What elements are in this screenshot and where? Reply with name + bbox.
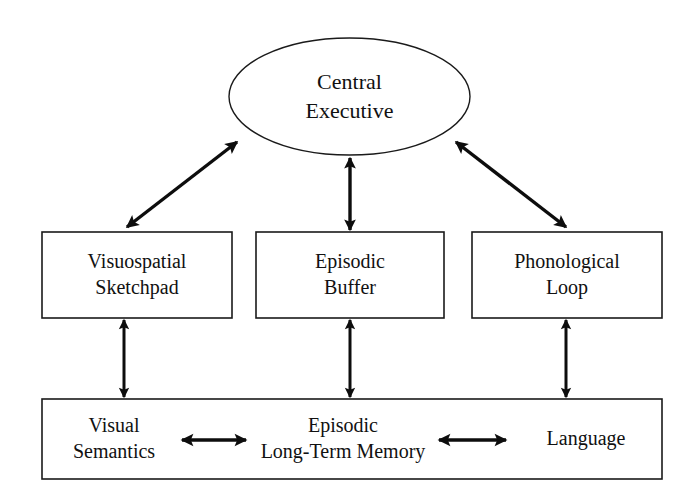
- central-executive-ellipse: [229, 38, 470, 155]
- connector-ce-to-phonological-loop: [456, 142, 566, 227]
- long-term-memory-bar: [42, 399, 662, 479]
- episodic-buffer-box: [256, 232, 444, 318]
- visuospatial-sketchpad-box: [42, 232, 232, 318]
- phonological-loop-box: [472, 232, 662, 318]
- connector-ce-to-sketchpad: [127, 142, 237, 227]
- diagram-canvas: [0, 0, 696, 502]
- working-memory-diagram: Central Executive Visuospatial Sketchpad…: [0, 0, 696, 502]
